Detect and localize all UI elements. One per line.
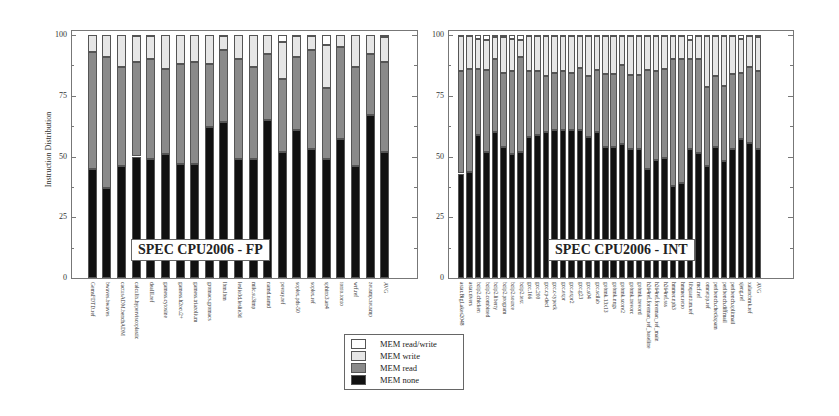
bar-segment-mem-write [517, 40, 524, 57]
bar-segment-mem-none [670, 186, 677, 278]
x-tick-label: xalancbmk.ref [747, 282, 753, 314]
bar-segment-mem-readwrite [670, 35, 677, 37]
bar-segment-mem-read [661, 69, 668, 158]
y-tick-label: 25 [424, 212, 444, 221]
bar-segment-mem-none [678, 183, 685, 278]
y-tick [448, 96, 453, 97]
bar-segment-mem-none [475, 135, 482, 278]
bar-segment-mem-write [458, 36, 465, 71]
x-tick-label: hmmer.retro [680, 282, 686, 309]
bar-segment-mem-read [534, 71, 541, 134]
bar-segment-mem-read [687, 59, 694, 149]
x-tick-label: gobmk.score2 [620, 282, 626, 313]
bar-segment-mem-readwrite [543, 35, 550, 37]
bar-segment-mem-read [475, 69, 482, 135]
bar-segment-mem-none [458, 174, 465, 278]
bar-segment-mem-readwrite [568, 35, 575, 37]
bar-segment-mem-none [483, 152, 490, 278]
y-minor-tick [448, 248, 451, 249]
bar-segment-mem-readwrite [610, 35, 617, 37]
bar-segment-mem-readwrite [712, 35, 719, 37]
bar-segment-mem-write [483, 40, 490, 70]
bar-segment-mem-read [653, 71, 660, 160]
legend-item-mem-readwrite: MEM read/write [351, 338, 457, 350]
bar-segment-mem-read [755, 71, 762, 149]
bar-segment-mem-readwrite [755, 35, 762, 37]
y-minor-tick [790, 187, 793, 188]
x-tick-label: gcc.200 [535, 282, 541, 299]
bar-segment-mem-write [594, 36, 601, 70]
bar-segment-mem-readwrite [577, 35, 584, 37]
bar-segment-mem-read [594, 70, 601, 132]
y-tick-right [788, 278, 793, 279]
bar-segment-mem-none [534, 135, 541, 278]
bar-segment-mem-none [695, 153, 702, 278]
bar-segment-mem-read [517, 57, 524, 152]
x-tick-label: gcc.166 [527, 282, 533, 299]
x-tick-label: gobmk.nngs [612, 282, 618, 309]
bar-segment-mem-write [746, 36, 753, 66]
bar-segment-mem-read [746, 67, 753, 144]
bar-segment-mem-read [585, 76, 592, 137]
x-tick-label: perlbench.splitmail [730, 282, 736, 324]
bar-segment-mem-none [712, 147, 719, 278]
bar-segment-mem-write [627, 36, 634, 75]
bar-segment-mem-read [458, 71, 465, 173]
x-tick-label: perlbench.diffmail [722, 282, 728, 323]
y-minor-tick [790, 65, 793, 66]
bar-segment-mem-none [729, 149, 736, 278]
bar-segment-mem-write [712, 36, 719, 76]
bar-segment-mem-read [602, 74, 609, 147]
bar-segment-mem-readwrite [738, 35, 745, 39]
bar-segment-mem-readwrite [729, 35, 736, 37]
swatch-icon [351, 363, 366, 373]
x-tick-label: omnetpp.ref [705, 282, 711, 309]
legend-label: MEM read/write [380, 339, 437, 349]
bar-segment-mem-none [746, 143, 753, 278]
bar-segment-mem-write [661, 36, 668, 69]
bar-segment-mem-read [492, 59, 499, 132]
bar-segment-mem-write [636, 36, 643, 75]
bar-segment-mem-read [704, 87, 711, 166]
x-tick-label: gcc.s04 [586, 282, 592, 299]
x-tick-label: bzip2.liberty [493, 282, 499, 310]
bar-segment-mem-readwrite [534, 35, 541, 37]
bar-segment-mem-none [721, 161, 728, 278]
y-tick-label: 50 [424, 152, 444, 161]
bar-segment-mem-read [500, 73, 507, 147]
bar-segment-mem-none [738, 139, 745, 278]
legend-item-mem-write: MEM write [351, 350, 457, 362]
bar-segment-mem-readwrite [475, 35, 482, 39]
bar-segment-mem-none [704, 166, 711, 278]
bar-segment-mem-write [526, 36, 533, 71]
bar-segment-mem-write [695, 36, 702, 59]
bar-segment-mem-readwrite [644, 35, 651, 37]
x-tick-label: h264ref.sss [663, 282, 669, 307]
bar-segment-mem-write [602, 36, 609, 74]
bar-segment-mem-readwrite [551, 35, 558, 37]
bar-segment-mem-read [721, 86, 728, 161]
bar-segment-mem-readwrite [526, 35, 533, 37]
legend: MEM read/write MEM write MEM read MEM no… [344, 334, 464, 390]
x-tick-label: gcc.scilab [595, 282, 601, 304]
bar-segment-mem-write [678, 36, 685, 59]
bar-segment-mem-read [577, 68, 584, 130]
bar-segment-mem-none [517, 152, 524, 278]
legend-label: MEM none [380, 375, 419, 385]
x-tick-label: AVG [756, 282, 762, 293]
bar-segment-mem-readwrite [585, 35, 592, 37]
bar-segment-mem-write [610, 36, 617, 74]
bar-segment-mem-none [526, 137, 533, 278]
bar-segment-mem-read [610, 74, 617, 147]
bar-segment-mem-write [653, 36, 660, 71]
x-tick-label: gcc.c-typeck [552, 282, 558, 310]
bar-segment-mem-write [466, 36, 473, 69]
legend-item-mem-read: MEM read [351, 362, 457, 374]
y-minor-tick [790, 248, 793, 249]
x-tick-label: hmmer.nph3 [671, 282, 677, 310]
bar-segment-mem-readwrite [653, 35, 660, 37]
bar-segment-mem-write [729, 36, 736, 74]
swatch-icon [351, 351, 366, 361]
x-tick-label: bzip2.text [519, 282, 525, 304]
bar-segment-mem-write [509, 39, 516, 72]
